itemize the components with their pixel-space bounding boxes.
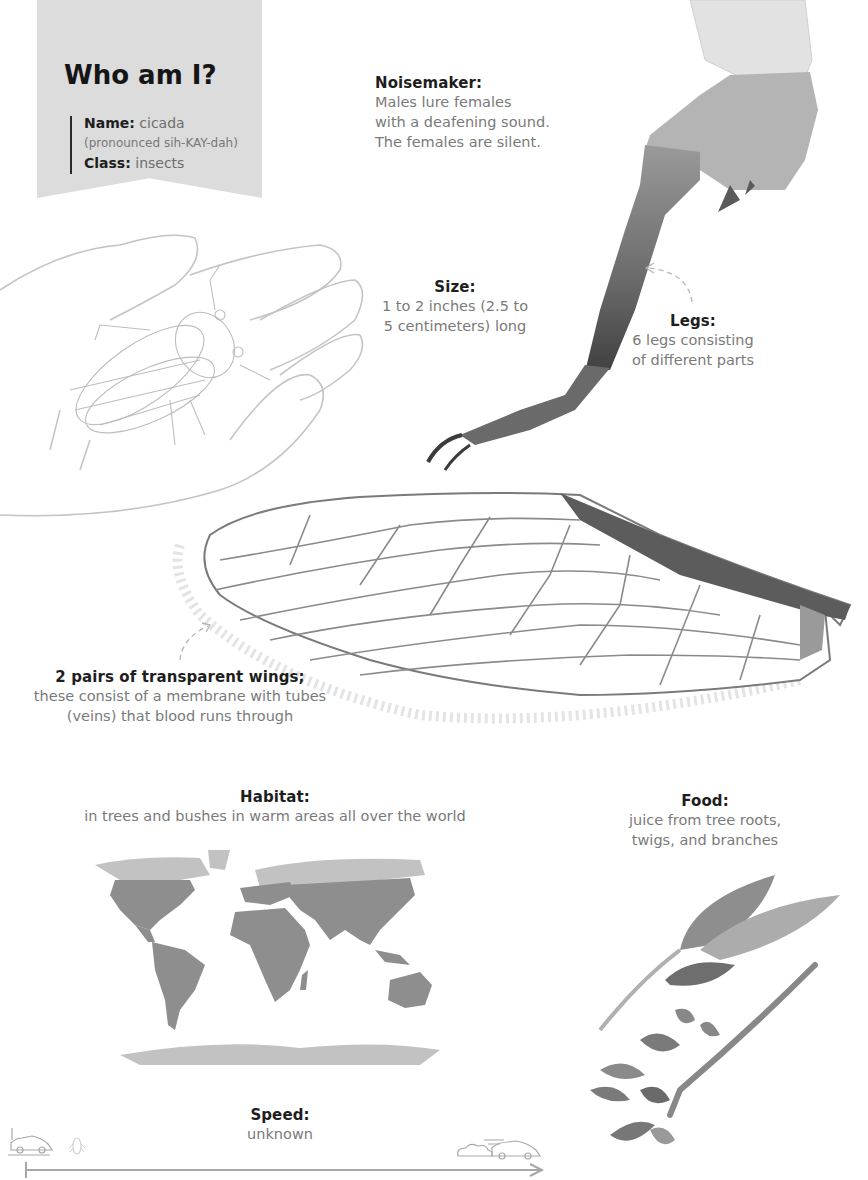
speed-label: Speed: — [190, 1106, 370, 1124]
legs-line: of different parts — [618, 350, 768, 370]
fact-food: Food: juice from tree roots, twigs, and … — [590, 792, 820, 850]
food-label: Food: — [590, 792, 820, 810]
food-line: twigs, and branches — [590, 830, 820, 850]
wings-pointer-arrow-icon — [170, 618, 220, 663]
habitat-label: Habitat: — [50, 788, 500, 806]
fast-car-icon — [456, 1136, 544, 1160]
wings-line: these consist of a membrane with tubes — [10, 686, 350, 706]
food-line: juice from tree roots, — [590, 810, 820, 830]
size-line: 5 centimeters) long — [380, 316, 530, 336]
world-map-illustration — [80, 850, 490, 1070]
speed-scale-arrow — [20, 1160, 550, 1180]
name-label: Name: — [84, 115, 135, 131]
habitat-line: in trees and bushes in warm areas all ov… — [50, 806, 500, 826]
name-value: cicada — [139, 115, 184, 131]
cicada-icon — [68, 1134, 86, 1158]
pronunciation: (pronounced sih-KAY-dah) — [84, 133, 238, 153]
size-line: 1 to 2 inches (2.5 to — [380, 296, 530, 316]
size-label: Size: — [380, 278, 530, 296]
fact-size: Size: 1 to 2 inches (2.5 to 5 centimeter… — [380, 278, 530, 336]
page-title: Who am I? — [64, 60, 217, 90]
title-divider — [70, 116, 72, 174]
legs-label: Legs: — [618, 312, 768, 330]
class-value: insects — [135, 155, 184, 171]
hand-with-cicada-illustration — [0, 210, 380, 530]
fact-wings: 2 pairs of transparent wings; these cons… — [10, 668, 350, 726]
cicada-leg-illustration — [400, 0, 868, 480]
twig-leaves-illustration — [580, 860, 868, 1160]
legs-line: 6 legs consisting — [618, 330, 768, 350]
fact-habitat: Habitat: in trees and bushes in warm are… — [50, 788, 500, 826]
legs-pointer-arrow-icon — [640, 260, 700, 310]
speed-value: unknown — [190, 1124, 370, 1144]
fact-speed: Speed: unknown — [190, 1106, 370, 1144]
wings-label: 2 pairs of transparent wings; — [10, 668, 350, 686]
identity-block: Name: cicada (pronounced sih-KAY-dah) Cl… — [84, 113, 238, 173]
slow-car-icon — [8, 1128, 54, 1158]
fact-legs: Legs: 6 legs consisting of different par… — [618, 312, 768, 370]
class-label: Class: — [84, 155, 131, 171]
wings-line: (veins) that blood runs through — [10, 706, 350, 726]
